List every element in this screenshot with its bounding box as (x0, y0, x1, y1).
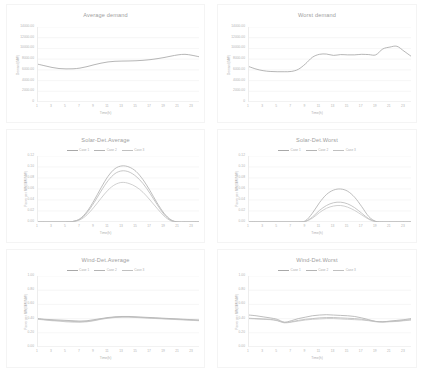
series-line (38, 317, 199, 322)
y-axis-tick: 0.08 (28, 176, 34, 179)
x-axis-tick: 19 (373, 104, 377, 108)
y-axis-tick: 0.60 (239, 303, 245, 306)
x-axis-tick: 3 (261, 349, 263, 353)
x-axis-tick: 23 (189, 224, 193, 228)
x-axis-tick: 13 (119, 349, 123, 353)
plot-area: Power per MW(MW/MW)0.000.020.040.060.080… (218, 132, 416, 244)
x-axis-label: Time(h) (218, 231, 416, 235)
series-line (38, 182, 199, 222)
plot-canvas (37, 276, 198, 347)
y-axis-tick: 0.12 (28, 154, 34, 157)
y-axis-tick: 12000.00 (20, 36, 34, 39)
y-axis-tick: 0.00 (28, 345, 34, 348)
x-axis-tick: 7 (78, 349, 80, 353)
x-axis-tick: 3 (50, 224, 52, 228)
x-axis-tick: 13 (119, 224, 123, 228)
x-axis-tick: 3 (261, 104, 263, 108)
y-axis-tick: 0.40 (239, 317, 245, 320)
y-axis-tick: 2000.00 (22, 90, 34, 93)
x-axis-tick: 19 (161, 104, 165, 108)
x-axis-tick: 21 (175, 224, 179, 228)
y-axis-tick: 1.00 (28, 274, 34, 277)
x-axis-tick: 15 (133, 349, 137, 353)
y-axis-tick: 8000.00 (233, 57, 245, 60)
x-axis-tick: 5 (64, 104, 66, 108)
y-axis-tick: 14000.00 (231, 25, 245, 28)
x-axis-tick: 7 (289, 224, 291, 228)
y-axis-tick: 0.00 (28, 220, 34, 223)
x-axis-tick: 7 (289, 104, 291, 108)
y-axis-tick: 0.10 (28, 165, 34, 168)
plot-area: Demand(MW)02000.004000.006000.008000.001… (7, 7, 204, 124)
x-axis-tick: 5 (64, 349, 66, 353)
x-axis-tick: 9 (303, 224, 305, 228)
x-axis-tick: 11 (105, 104, 108, 108)
y-axis-tick: 0.80 (28, 288, 34, 291)
y-axis-tick: 0.20 (239, 331, 245, 334)
y-axis-tick: 10000.00 (231, 47, 245, 50)
x-axis-tick: 15 (133, 224, 137, 228)
y-axis-tick: 0.20 (28, 331, 34, 334)
y-axis-tick: 0.04 (239, 198, 245, 201)
x-axis-tick: 9 (303, 104, 305, 108)
x-axis-tick: 3 (261, 224, 263, 228)
x-axis-tick: 23 (401, 224, 405, 228)
y-axis-ticks: 02000.004000.006000.008000.0010000.00120… (218, 27, 245, 102)
y-axis-tick: 0 (32, 100, 34, 103)
x-axis-tick: 13 (119, 104, 123, 108)
x-axis-tick: 19 (373, 224, 377, 228)
plot-area: Power per MW(MW/MW)0.000.200.400.600.801… (7, 252, 204, 369)
x-axis-tick: 7 (78, 224, 80, 228)
x-axis-tick: 11 (317, 349, 320, 353)
x-axis-label: Time(h) (7, 231, 204, 235)
x-axis-tick: 23 (401, 349, 405, 353)
x-axis-tick: 9 (92, 349, 94, 353)
x-axis-tick: 21 (175, 104, 179, 108)
x-axis-tick: 9 (92, 104, 94, 108)
y-axis-ticks: 0.000.200.400.600.801.00 (218, 276, 245, 347)
x-axis-tick: 11 (105, 224, 108, 228)
x-axis-tick: 11 (317, 224, 320, 228)
x-axis-tick: 23 (189, 349, 193, 353)
x-axis-tick: 13 (331, 224, 335, 228)
x-axis-label: Time(h) (7, 356, 204, 360)
y-axis-tick: 0.02 (28, 209, 34, 212)
series-line (249, 205, 411, 222)
x-axis-tick: 21 (387, 224, 391, 228)
x-axis-tick: 1 (36, 104, 38, 108)
series-line (249, 189, 411, 222)
series-line (38, 171, 199, 222)
y-axis-tick: 0.06 (28, 187, 34, 190)
plot-area: Power per MW(MW/MW)0.000.200.400.600.801… (218, 252, 416, 369)
y-axis-tick: 0.12 (239, 154, 245, 157)
x-axis-label: Time(h) (218, 111, 416, 115)
x-axis-tick: 13 (331, 349, 335, 353)
x-axis-tick: 7 (289, 349, 291, 353)
x-axis-tick: 13 (331, 104, 335, 108)
y-axis-ticks: 0.000.020.040.060.080.100.12 (7, 156, 34, 222)
plot-area: Demand(MW)02000.004000.006000.008000.001… (218, 7, 416, 124)
x-axis-tick: 3 (50, 349, 52, 353)
x-axis-tick: 1 (36, 224, 38, 228)
y-axis-ticks: 02000.004000.006000.008000.0010000.00120… (7, 27, 34, 102)
plot-canvas (37, 156, 198, 222)
x-axis-tick: 15 (345, 224, 349, 228)
x-axis-tick: 5 (275, 349, 277, 353)
x-axis-tick: 21 (387, 104, 391, 108)
y-axis-tick: 0.04 (28, 198, 34, 201)
x-axis-tick: 7 (78, 104, 80, 108)
x-axis-tick: 17 (359, 224, 363, 228)
series-line (249, 202, 411, 222)
y-axis-tick: 10000.00 (20, 47, 34, 50)
x-axis-tick: 17 (359, 104, 363, 108)
chart-grid: Average demandDemand(MW)02000.004000.006… (0, 0, 423, 370)
series-line (249, 319, 411, 323)
y-axis-tick: 2000.00 (233, 90, 245, 93)
x-axis-tick: 15 (345, 104, 349, 108)
x-axis-tick: 15 (133, 104, 137, 108)
x-axis-tick: 11 (317, 104, 320, 108)
series-line (38, 166, 199, 222)
x-axis-label: Time(h) (218, 356, 416, 360)
plot-canvas (248, 27, 410, 102)
x-axis-tick: 17 (147, 224, 151, 228)
